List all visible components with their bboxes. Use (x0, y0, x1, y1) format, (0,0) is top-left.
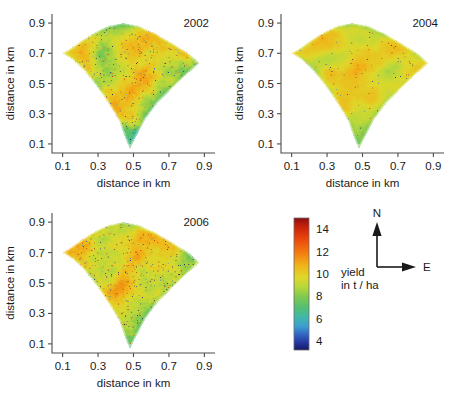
y-tick-label: 0.7 (29, 247, 45, 259)
colorbar-tick-label: 10 (316, 268, 329, 280)
y-axis-title: distance in km (233, 47, 245, 121)
y-tick-label: 0.9 (29, 17, 45, 29)
year-annotation: 2004 (412, 17, 438, 29)
yield-map-panel-2004: 0.10.30.50.70.90.10.30.50.70.9distance i… (229, 0, 458, 199)
year-annotation: 2002 (183, 17, 209, 29)
y-tick-label: 0.1 (29, 338, 45, 350)
colorbar-tick-label: 4 (316, 335, 323, 347)
year-annotation: 2006 (183, 216, 209, 228)
x-axis-title: distance in km (97, 177, 171, 189)
x-tick-label: 0.3 (90, 160, 106, 172)
y-axis-title: distance in km (4, 246, 16, 320)
y-tick-label: 0.5 (258, 78, 274, 90)
colorbar-tick-label: 14 (316, 223, 329, 235)
x-tick-label: 0.7 (161, 360, 177, 372)
x-axis-title: distance in km (326, 177, 400, 189)
y-tick-label: 0.3 (29, 108, 45, 120)
yield-map-panel-2002: 0.10.30.50.70.90.10.30.50.70.9distance i… (0, 0, 229, 199)
y-tick-label: 0.3 (258, 108, 274, 120)
compass-east-label: E (423, 261, 431, 273)
yield-raster-2006 (52, 213, 215, 353)
yield-raster-2002 (52, 14, 215, 153)
yield-raster-2004 (281, 14, 444, 153)
compass-east-arrowhead (402, 262, 416, 271)
y-tick-label: 0.1 (258, 138, 274, 150)
colorbar-tick-label: 8 (316, 290, 322, 302)
x-tick-label: 0.1 (55, 160, 71, 172)
x-tick-label: 0.1 (55, 360, 71, 372)
colorbar-tick-label: 6 (316, 313, 322, 325)
colorbar-title-line1: yield (341, 266, 365, 278)
colorbar-gradient (294, 218, 309, 350)
y-tick-label: 0.5 (29, 78, 45, 90)
x-tick-label: 0.5 (126, 360, 142, 372)
plot-area-2002: 0.10.30.50.70.90.10.30.50.70.9distance i… (0, 0, 229, 199)
y-tick-label: 0.7 (29, 47, 45, 59)
colorbar-tick-label: 12 (316, 246, 329, 258)
legend-block: 141210864yieldin t / haNE (280, 205, 458, 355)
x-tick-label: 0.5 (126, 160, 142, 172)
colorbar-title-line2: in t / ha (341, 279, 379, 291)
plot-area-2006: 0.10.30.50.70.90.10.30.50.70.9distance i… (0, 199, 229, 399)
x-tick-label: 0.1 (284, 160, 300, 172)
compass-north-arrowhead (372, 222, 381, 236)
x-tick-label: 0.9 (425, 160, 441, 172)
compass-north-label: N (373, 207, 381, 219)
colorbar-and-compass: 141210864yieldin t / haNE (280, 205, 458, 355)
y-tick-label: 0.3 (29, 307, 45, 319)
y-tick-label: 0.1 (29, 138, 45, 150)
x-tick-label: 0.3 (90, 360, 106, 372)
x-tick-label: 0.9 (196, 360, 212, 372)
y-tick-label: 0.9 (29, 216, 45, 228)
y-tick-label: 0.7 (258, 47, 274, 59)
x-tick-label: 0.5 (355, 160, 371, 172)
plot-area-2004: 0.10.30.50.70.90.10.30.50.70.9distance i… (229, 0, 458, 199)
y-tick-label: 0.5 (29, 277, 45, 289)
y-axis-title: distance in km (4, 47, 16, 121)
yield-map-panel-2006: 0.10.30.50.70.90.10.30.50.70.9distance i… (0, 199, 229, 399)
x-tick-label: 0.7 (161, 160, 177, 172)
x-tick-label: 0.3 (319, 160, 335, 172)
x-tick-label: 0.9 (196, 160, 212, 172)
x-axis-title: distance in km (97, 377, 171, 389)
y-tick-label: 0.9 (258, 17, 274, 29)
x-tick-label: 0.7 (390, 160, 406, 172)
